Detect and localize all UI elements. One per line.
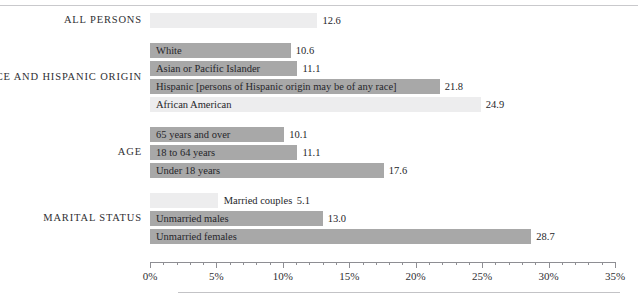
bar-label: 65 years and over (156, 127, 230, 142)
x-axis-minor-tick (522, 262, 523, 265)
x-axis-minor-tick (163, 262, 164, 265)
x-axis-minor-tick (575, 262, 576, 265)
x-axis-major-tick (283, 262, 284, 268)
bar-label: White (156, 43, 182, 58)
x-axis-minor-tick (588, 262, 589, 265)
x-axis-minor-tick (336, 262, 337, 265)
x-axis-minor-tick (363, 262, 364, 265)
chart-figure: 12.6ALL PERSONSWhite10.6Asian or Pacific… (0, 0, 638, 306)
x-axis-minor-tick (256, 262, 257, 265)
x-axis-major-tick (482, 262, 483, 268)
bar-label: Unmarried females (156, 229, 237, 244)
bar-label: Asian or Pacific Islander (156, 61, 260, 76)
bar-value-label: 11.1 (302, 61, 320, 76)
x-axis-minor-tick (203, 262, 204, 265)
x-axis-minor-tick (389, 262, 390, 265)
x-axis-major-tick (216, 262, 217, 268)
x-axis-tick-label: 25% (472, 270, 492, 282)
x-axis-minor-tick (190, 262, 191, 265)
bottom-divider-rule (178, 292, 620, 293)
x-axis-major-tick (549, 262, 550, 268)
bar-label: Under 18 years (156, 163, 220, 178)
x-axis-minor-tick (456, 262, 457, 265)
x-axis-minor-tick (230, 262, 231, 265)
x-axis-minor-tick (495, 262, 496, 265)
x-axis-minor-tick (562, 262, 563, 265)
x-axis-tick-label: 20% (406, 270, 426, 282)
x-axis-minor-tick (323, 262, 324, 265)
group-label: RACE AND HISPANIC ORIGIN (0, 71, 142, 82)
x-axis-line (150, 262, 615, 263)
x-axis-tick-label: 35% (605, 270, 625, 282)
x-axis-major-tick (349, 262, 350, 268)
bar-chart-plot-area: 12.6ALL PERSONSWhite10.6Asian or Pacific… (0, 0, 638, 306)
x-axis-major-tick (416, 262, 417, 268)
bar-value-label: 13.0 (328, 211, 346, 226)
group-label: ALL PERSONS (0, 14, 142, 25)
x-axis-minor-tick (429, 262, 430, 265)
group-label: MARITAL STATUS (0, 212, 142, 223)
bar-rect (150, 193, 218, 208)
bar-label: 18 to 64 years (156, 145, 215, 160)
bar-value-label: 10.1 (289, 127, 307, 142)
x-axis-tick-label: 0% (143, 270, 158, 282)
bar-value-label: 21.8 (445, 79, 463, 94)
x-axis-minor-tick (442, 262, 443, 265)
x-axis-minor-tick (270, 262, 271, 265)
x-axis-minor-tick (535, 262, 536, 265)
x-axis-minor-tick (243, 262, 244, 265)
bar-value-label: 24.9 (486, 97, 504, 112)
x-axis-minor-tick (509, 262, 510, 265)
x-axis-minor-tick (469, 262, 470, 265)
bar-label: Unmarried males (156, 211, 229, 226)
bar-value-label: 11.1 (302, 145, 320, 160)
x-axis-minor-tick (602, 262, 603, 265)
bar-value-label: 17.6 (389, 163, 407, 178)
bar-label: Married couples (224, 193, 293, 208)
bar-value-label: 28.7 (536, 229, 554, 244)
x-axis-major-tick (150, 262, 151, 268)
bar-value-label: 12.6 (322, 13, 340, 28)
x-axis-minor-tick (177, 262, 178, 265)
x-axis-tick-label: 30% (538, 270, 558, 282)
x-axis-minor-tick (376, 262, 377, 265)
group-label: AGE (0, 146, 142, 157)
x-axis-minor-tick (309, 262, 310, 265)
bar-label: African American (156, 97, 232, 112)
bar-label: Hispanic [persons of Hispanic origin may… (156, 79, 397, 94)
x-axis-minor-tick (402, 262, 403, 265)
bar-value-label: 5.1 (297, 193, 310, 208)
x-axis-major-tick (615, 262, 616, 268)
x-axis-tick-label: 15% (339, 270, 359, 282)
bar-value-label: 10.6 (296, 43, 314, 58)
bar-rect (150, 13, 317, 28)
x-axis-tick-label: 10% (273, 270, 293, 282)
x-axis-tick-label: 5% (209, 270, 224, 282)
x-axis-minor-tick (296, 262, 297, 265)
